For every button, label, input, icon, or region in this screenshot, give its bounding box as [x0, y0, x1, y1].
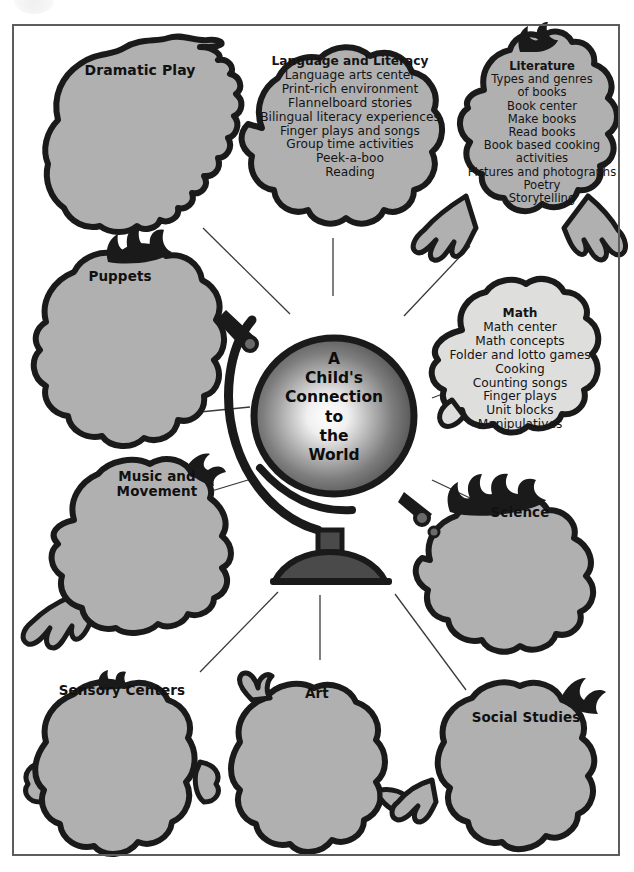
page-border [12, 24, 620, 856]
